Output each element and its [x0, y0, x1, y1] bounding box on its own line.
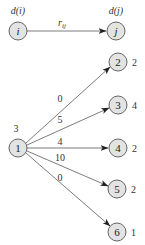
edge-label-1-4: 4	[58, 136, 63, 147]
node-3: 3 4	[109, 96, 137, 114]
legend: d(i) d(j) rij i j	[9, 5, 125, 40]
source-attr-label: d(i)	[11, 5, 26, 17]
node-2: 2 2	[109, 53, 137, 71]
svg-text:6: 6	[114, 226, 120, 238]
node-4-value: 2	[132, 143, 137, 154]
edge-labels: 0 5 4 10 0	[55, 93, 65, 183]
node-1-value: 3	[14, 123, 19, 134]
node-4: 4 2	[109, 139, 137, 157]
node-3-value: 4	[132, 100, 137, 111]
svg-text:5: 5	[114, 183, 120, 195]
node-5: 5 2	[108, 180, 136, 198]
edge-1-3	[27, 108, 109, 145]
diagram-canvas: d(i) d(j) rij i j 0 5 4 10 0 3 1 2	[0, 0, 145, 245]
edge-label-1-3: 5	[58, 114, 63, 125]
edge-1-5	[27, 151, 108, 186]
edge-label-1-5: 10	[55, 152, 65, 163]
svg-text:i: i	[16, 25, 19, 37]
svg-text:3: 3	[115, 99, 121, 111]
edges	[26, 67, 110, 226]
node-6-value: 1	[131, 227, 136, 238]
legend-node-i: i	[9, 22, 27, 40]
svg-text:2: 2	[115, 56, 121, 68]
edge-label-1-6: 0	[58, 172, 63, 183]
legend-node-j: j	[107, 22, 125, 40]
node-1: 3 1	[9, 123, 27, 157]
edge-1-2	[26, 67, 110, 143]
svg-text:4: 4	[115, 142, 121, 154]
edge-label-1-2: 0	[58, 93, 63, 104]
edge-1-6	[26, 153, 110, 226]
target-attr-label: d(j)	[109, 5, 124, 17]
legend-edge-label: rij	[58, 17, 66, 30]
node-2-value: 2	[132, 57, 137, 68]
node-6: 6 1	[108, 223, 136, 241]
svg-text:1: 1	[15, 142, 21, 154]
node-5-value: 2	[131, 184, 136, 195]
